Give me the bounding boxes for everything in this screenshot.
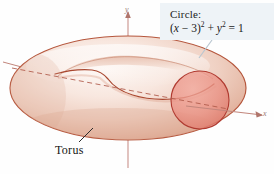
torus-figure: Circle: (x − 3)2 + y2 = 1 Torus y x [0, 0, 274, 174]
y-axis-label: y [125, 5, 129, 14]
callout-title: Circle: [170, 8, 274, 21]
x-axis-label: x [263, 109, 267, 118]
eq-result: 1 [238, 22, 244, 34]
eq-plus: + [205, 22, 217, 34]
eq-minus: − [179, 22, 191, 34]
x-axis-arrowhead [256, 111, 264, 117]
circle-equation-callout: Circle: (x − 3)2 + y2 = 1 [160, 3, 274, 40]
torus-left-shading [6, 54, 66, 138]
torus-label: Torus [55, 143, 84, 158]
eq-equals: = [226, 22, 238, 34]
callout-equation: (x − 3)2 + y2 = 1 [170, 21, 274, 36]
